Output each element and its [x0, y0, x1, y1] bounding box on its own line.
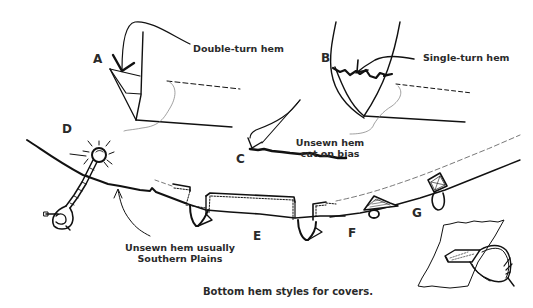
- label-b: B: [321, 52, 330, 66]
- label-f: F: [348, 227, 356, 241]
- southern-plains-arrow-icon: [114, 189, 150, 236]
- hem-styles-diagram: A Double-turn hem B Single-turn hem C Un…: [0, 0, 533, 308]
- annotation-double-turn-hem: Double-turn hem: [193, 44, 284, 55]
- single-turn-hem-lines-icon: [312, 22, 364, 116]
- label-d: D: [62, 123, 72, 137]
- single-turn-hem-drawn-icon: [314, 22, 363, 116]
- label-a: A: [93, 53, 102, 67]
- single-turn-hem-sketch-icon: [319, 22, 365, 118]
- annotation-single-turn-hem: Single-turn hem: [423, 53, 509, 64]
- label-e: E: [253, 230, 261, 244]
- single-turn-hem-shape-icon: [333, 22, 472, 134]
- rope-tie-stone-sketch-icon: [27, 140, 185, 230]
- square-tab-loop-sketch-icon: [428, 173, 447, 210]
- tab-loop-detail-sketch-icon: [418, 220, 514, 288]
- label-c: C: [236, 153, 245, 167]
- label-g: G: [412, 207, 422, 221]
- annotation-unsewn-bias-line2: cut on bias: [290, 149, 370, 160]
- annotation-southern-plains: Unsewn hem usually Southern Plains: [120, 243, 240, 265]
- annotation-unsewn-bias: Unsewn hem cut on bias: [290, 138, 370, 160]
- double-turn-hem-sketch-icon: [110, 22, 240, 131]
- fabric-tab-loops-sketch-icon: [155, 180, 345, 240]
- triangle-tab-loop-sketch-icon: [364, 196, 398, 218]
- annotation-southern-plains-line2: Southern Plains: [120, 254, 240, 265]
- figure-caption: Bottom hem styles for covers.: [203, 286, 373, 298]
